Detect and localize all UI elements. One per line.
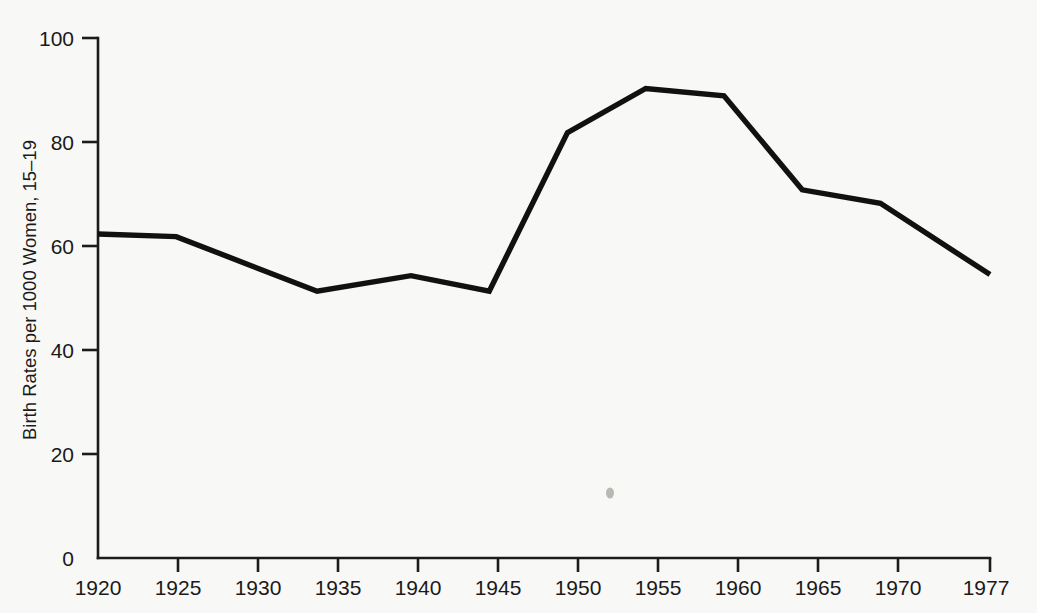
y-tick-label-60: 60: [51, 235, 74, 258]
x-tick-label-1955: 1955: [635, 576, 682, 599]
x-tick-label-1960: 1960: [715, 576, 762, 599]
x-tick-label-1920: 1920: [75, 576, 122, 599]
line-chart-canvas: 100 80 60 40 20 0 1920 1925 1930 1935: [0, 0, 1037, 613]
scan-speck: [606, 488, 614, 499]
x-tick-label-1930: 1930: [235, 576, 282, 599]
axis-lines: [98, 38, 990, 558]
y-axis-ticks: [82, 38, 98, 454]
x-tick-label-1925: 1925: [155, 576, 202, 599]
y-tick-label-80: 80: [51, 131, 74, 154]
y-tick-label-20: 20: [51, 443, 74, 466]
x-tick-label-1935: 1935: [315, 576, 362, 599]
x-axis-tick-labels: 1920 1925 1930 1935 1940 1945 1950 1955 …: [75, 576, 1010, 599]
x-tick-label-1945: 1945: [475, 576, 522, 599]
y-tick-label-0: 0: [62, 547, 74, 570]
y-tick-label-100: 100: [39, 27, 74, 50]
y-tick-label-40: 40: [51, 339, 74, 362]
y-axis-title: Birth Rates per 1000 Women, 15–19: [19, 140, 40, 440]
chart-figure: 100 80 60 40 20 0 1920 1925 1930 1935: [0, 0, 1037, 613]
x-tick-label-1970: 1970: [875, 576, 922, 599]
x-tick-label-1977: 1977: [963, 576, 1010, 599]
x-tick-label-1940: 1940: [395, 576, 442, 599]
x-tick-label-1965: 1965: [795, 576, 842, 599]
x-axis-ticks: [178, 558, 990, 572]
y-axis-tick-labels: 100 80 60 40 20 0: [39, 27, 74, 570]
birth-rate-series-line: [98, 88, 990, 291]
x-tick-label-1950: 1950: [555, 576, 602, 599]
